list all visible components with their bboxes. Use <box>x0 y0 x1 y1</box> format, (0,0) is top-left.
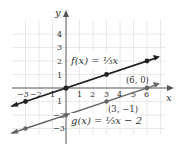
x-axis-label: x <box>166 92 172 103</box>
x-tick: −3 <box>17 90 29 99</box>
x-tick: 2 <box>90 90 95 99</box>
y-axis-label: y <box>54 7 61 18</box>
y-tick: 2 <box>57 57 62 66</box>
coordinate-plane: x y −3 −2 1 1 2 3 4 5 6 4 3 2 1 1 −2 −3 <box>0 0 181 148</box>
g-point <box>145 86 150 91</box>
f-point <box>63 85 68 90</box>
y-tick: 1 <box>57 97 62 106</box>
y-tick: 1 <box>57 71 62 80</box>
f-label: f(x) = ⅓x <box>70 55 119 66</box>
annotation-6-0: (6, 0) <box>126 75 149 85</box>
f-point <box>104 72 109 77</box>
annotation-3-neg1: (3, −1) <box>108 104 138 114</box>
g-point <box>64 113 68 117</box>
y-tick: 4 <box>57 30 62 39</box>
f-point <box>145 59 150 64</box>
x-tick: 1 <box>77 90 82 99</box>
x-tick: 3 <box>104 90 109 99</box>
g-label: g(x) = ⅓x − 2 <box>71 115 142 126</box>
f-point <box>23 99 28 104</box>
y-tick: −3 <box>53 124 65 133</box>
g-point <box>23 126 27 130</box>
x-tick: 6 <box>144 90 149 99</box>
y-tick: 3 <box>57 43 62 52</box>
